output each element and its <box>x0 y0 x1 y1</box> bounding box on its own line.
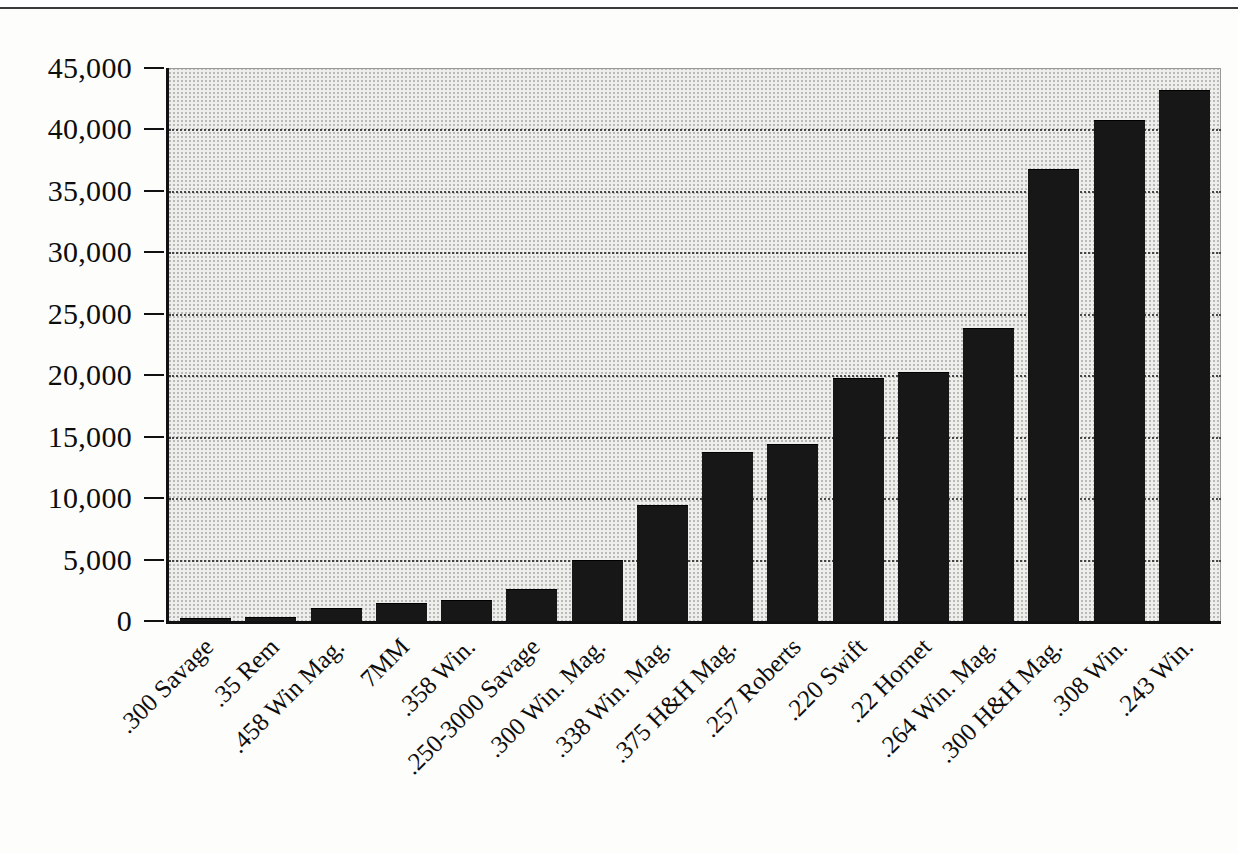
bar[interactable] <box>441 600 492 621</box>
bar[interactable] <box>311 608 362 621</box>
y-tick-mark <box>144 67 164 69</box>
bar[interactable] <box>637 505 688 622</box>
bar-slot <box>565 68 630 621</box>
x-tick-slot: .308 Win. <box>1084 624 1149 854</box>
y-tick-label: 30,000 <box>48 235 132 269</box>
y-tick-mark <box>144 497 164 499</box>
bar-chart: 05,00010,00015,00020,00025,00030,00035,0… <box>0 7 1238 854</box>
y-tick-mark <box>144 436 164 438</box>
y-tick-mark <box>144 190 164 192</box>
bar-slot <box>434 68 499 621</box>
y-tick-label: 5,000 <box>63 543 132 577</box>
bar[interactable] <box>1028 169 1079 621</box>
bar[interactable] <box>245 617 296 621</box>
x-tick-slot: .458 Win Mag. <box>301 624 366 854</box>
bar-series <box>169 68 1221 621</box>
bar-slot <box>695 68 760 621</box>
bar-slot <box>826 68 891 621</box>
bar-slot <box>1152 68 1217 621</box>
bar[interactable] <box>963 328 1014 621</box>
bar[interactable] <box>572 560 623 621</box>
y-tick-label: 40,000 <box>48 112 132 146</box>
plot-area <box>166 68 1221 624</box>
y-tick-label: 35,000 <box>48 174 132 208</box>
x-tick-slot: .300 H&H Mag. <box>1018 624 1083 854</box>
bar[interactable] <box>898 372 949 621</box>
bar-slot <box>304 68 369 621</box>
bar[interactable] <box>376 603 427 621</box>
y-tick-label: 45,000 <box>48 51 132 85</box>
bar-slot <box>891 68 956 621</box>
bar-slot <box>369 68 434 621</box>
bar-slot <box>1087 68 1152 621</box>
y-tick-label: 20,000 <box>48 358 132 392</box>
y-tick-mark <box>144 620 164 622</box>
bar[interactable] <box>702 452 753 621</box>
y-tick-mark <box>144 128 164 130</box>
bar[interactable] <box>1159 90 1210 621</box>
x-axis: .300 Savage.35 Rem.458 Win Mag.7MM.358 W… <box>166 624 1218 854</box>
bar-slot <box>1021 68 1086 621</box>
bar-slot <box>630 68 695 621</box>
y-tick-mark <box>144 313 164 315</box>
bar[interactable] <box>1094 120 1145 621</box>
x-tick-slot: .257 Roberts <box>757 624 822 854</box>
bar-slot <box>760 68 825 621</box>
x-tick-slot: .243 Win. <box>1149 624 1214 854</box>
y-axis: 05,00010,00015,00020,00025,00030,00035,0… <box>0 47 140 647</box>
y-tick-mark <box>144 251 164 253</box>
y-tick-mark <box>144 559 164 561</box>
y-tick-label: 0 <box>117 604 132 638</box>
page-canvas: 05,00010,00015,00020,00025,00030,00035,0… <box>0 0 1238 854</box>
y-tick-mark <box>144 374 164 376</box>
x-tick-slot: .375 H&H Mag. <box>692 624 757 854</box>
y-tick-label: 10,000 <box>48 481 132 515</box>
y-tick-label: 15,000 <box>48 420 132 454</box>
bar-slot <box>173 68 238 621</box>
bar-slot <box>499 68 564 621</box>
bar[interactable] <box>180 618 231 621</box>
bar-slot <box>956 68 1021 621</box>
bar[interactable] <box>506 589 557 621</box>
bar[interactable] <box>767 444 818 621</box>
y-tick-label: 25,000 <box>48 297 132 331</box>
bar[interactable] <box>833 378 884 621</box>
bar-slot <box>238 68 303 621</box>
